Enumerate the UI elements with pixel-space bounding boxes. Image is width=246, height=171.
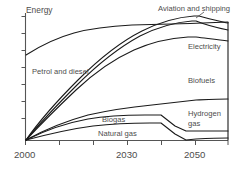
series-label-biogas: Biogas — [102, 115, 125, 124]
series-label-hydrogen-gas-line2: gas — [188, 119, 200, 128]
energy-mix-chart: Energy 2000 2030 2050 Aviation and shipp… — [0, 0, 246, 171]
series-label-natural-gas: Natural gas — [98, 129, 137, 138]
series-label-aviation-and-shipping: Aviation and shipping — [158, 4, 230, 13]
series-label-biofuels: Biofuels — [188, 76, 215, 85]
chart-svg: Energy 2000 2030 2050 Aviation and shipp… — [0, 0, 246, 171]
series-label-hydrogen-gas-line1: Hydrogen — [188, 109, 221, 118]
x-tick-label-2000: 2000 — [14, 149, 35, 160]
x-tick-label-2050: 2050 — [184, 149, 205, 160]
x-tick-label-2030: 2030 — [116, 149, 137, 160]
y-axis-title: Energy — [26, 5, 53, 15]
series-label-petrol-and-diesel: Petrol and diesel — [32, 67, 89, 76]
series-label-electricity: Electricity — [188, 42, 221, 51]
